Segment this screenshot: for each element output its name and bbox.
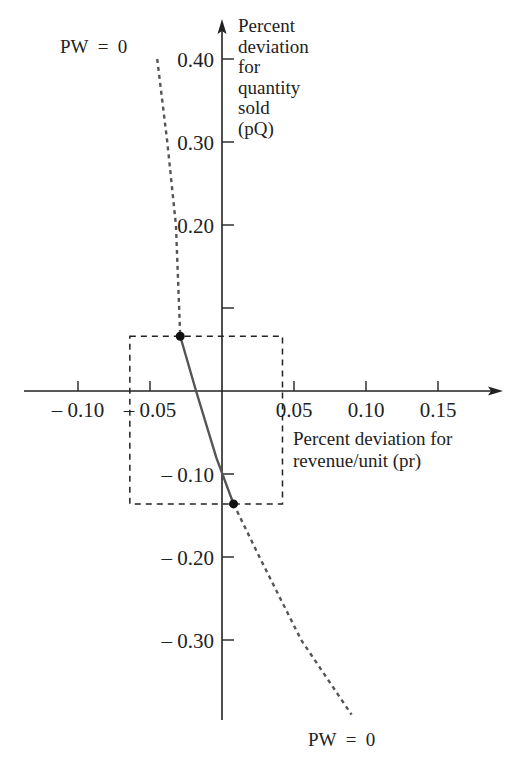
x-axis-label-line: Percent deviation for [293, 428, 453, 449]
intersection-point [176, 332, 185, 341]
x-axis-label: Percent deviation forrevenue/unit (pr) [293, 428, 453, 472]
pw-zero-annotation-top: PW = 0 [60, 36, 127, 57]
y-axis-label-line: Percent [238, 15, 296, 36]
x-tick-label: 0.15 [420, 398, 457, 422]
x-tick-label: – 0.10 [51, 398, 105, 422]
x-tick-label: 0.05 [276, 398, 313, 422]
y-axis-label-line: for [238, 56, 261, 77]
y-tick-label: 0.30 [177, 131, 214, 155]
y-tick-label: – 0.30 [161, 629, 215, 653]
sensitivity-chart: – 0.10– 0.050.050.100.150.400.300.20– 0.… [0, 0, 515, 767]
y-axis-label-line: sold [238, 97, 270, 118]
y-tick-label: – 0.20 [161, 546, 215, 570]
x-axis-label-line: revenue/unit (pr) [293, 450, 421, 472]
y-axis-label-line: (pQ) [238, 118, 274, 140]
y-tick-label: – 0.10 [161, 463, 215, 487]
y-axis-label: Percentdeviationforquantitysold(pQ) [238, 15, 309, 140]
y-axis-label-line: deviation [238, 36, 309, 57]
pw-zero-annotation-bottom: PW = 0 [308, 729, 375, 750]
intersection-point [229, 499, 238, 508]
pw-zero-curve-upper-dashed [157, 59, 180, 336]
y-tick-label: 0.40 [177, 48, 214, 72]
y-tick-label: 0.20 [177, 214, 214, 238]
x-tick-label: 0.10 [348, 398, 385, 422]
x-tick-label: – 0.05 [123, 398, 177, 422]
pw-zero-curve-lower-dashed [234, 504, 352, 715]
y-axis-label-line: quantity [238, 77, 301, 98]
